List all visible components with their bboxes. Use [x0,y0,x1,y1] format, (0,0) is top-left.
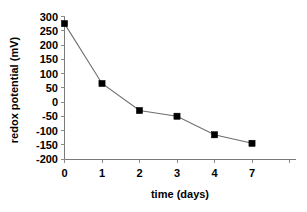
data-point-marker [249,140,255,146]
y-tick-label: 50 [46,82,58,94]
x-axis-title: time (days) [151,188,209,200]
data-point-marker [136,107,142,113]
x-tick-label: 7 [249,167,255,179]
data-point-marker [61,21,67,27]
y-tick-label: -100 [36,125,58,137]
y-axis-title: redox potential (mV) [8,36,20,143]
data-point-marker [211,132,217,138]
y-tick-label: 100 [40,68,58,80]
redox-potential-line-chart: 300 250 200 150 100 50 0 -50 -100 -150 -… [0,0,307,212]
y-tick-label: 0 [52,96,58,108]
y-tick-label: 150 [40,53,58,65]
y-tick-label: -200 [36,153,58,165]
x-tick-label: 1 [99,167,105,179]
y-tick-label: 300 [40,11,58,23]
x-tick-label: 4 [211,167,218,179]
chart-canvas: 300 250 200 150 100 50 0 -50 -100 -150 -… [0,0,307,212]
y-tick-label: 200 [40,39,58,51]
y-tick-label: -50 [42,110,58,122]
x-tick-label: 0 [61,167,67,179]
y-tick-label: 250 [40,25,58,37]
x-tick-label: 3 [174,167,180,179]
data-point-marker [99,80,105,86]
data-point-marker [174,113,180,119]
x-tick-label: 2 [136,167,142,179]
y-tick-label: -150 [36,139,58,151]
